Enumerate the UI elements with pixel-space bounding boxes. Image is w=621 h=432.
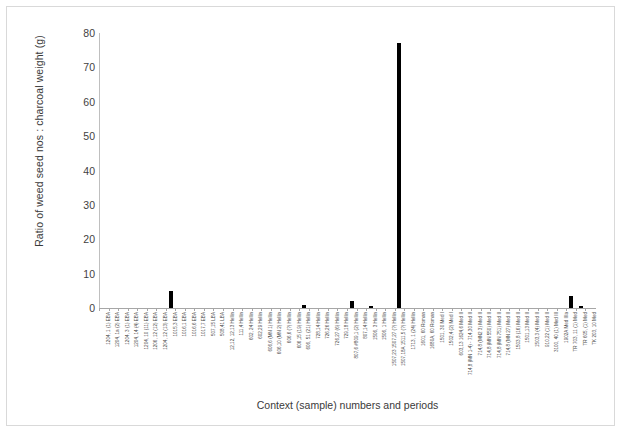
x-axis-category-label: 1016,1 EBA [182,312,187,337]
x-axis-tick [242,308,243,311]
x-axis-tick [118,308,119,311]
x-axis-title: Context (sample) numbers and periods [99,399,596,411]
x-axis-category-label: 1506, 3 Hellin [373,312,378,340]
x-axis-tick [271,308,272,311]
x-axis-tick [204,308,205,311]
x-axis-tick [175,308,176,311]
x-axis-category-label: 910,22 (1) Med II [545,312,550,347]
x-axis-tick [442,308,443,311]
bar-slot [509,33,519,308]
y-axis-tick-label: 70 [69,61,95,73]
x-axis-tick [309,308,310,311]
bar-slot [490,33,500,308]
x-axis-tick [213,308,214,311]
bar [350,301,354,308]
x-axis-category-label: 714,8 (MN 1-4) - 714,30 Med II [468,312,473,375]
x-axis-category-label: 1503,3 (4) Med II [535,312,540,347]
bar-slot [337,33,347,308]
bar-slot [223,33,233,308]
x-axis-tick [414,308,415,311]
x-axis-category-label: 1713, 1 (24) Hellin [411,312,416,350]
bar-slot [557,33,567,308]
x-axis-category-label: 1680A, 60 Roman [430,312,435,349]
x-axis-category-label: 1204, 14 (4) EBA [134,312,139,347]
x-axis-category-label: 1501, 30 Med I [440,312,445,343]
x-axis-category-label: 714,8 (MN2 3) Med II [478,312,483,355]
x-axis-tick [185,308,186,311]
x-axis-category-label: 606, 51 (21) Hellin [306,312,311,350]
bar-slot [585,33,595,308]
x-axis-tick [156,308,157,311]
x-axis-tick [528,308,529,311]
bar [579,306,583,308]
y-axis-tick-label: 40 [69,165,95,177]
x-axis-tick [147,308,148,311]
bar-slot [528,33,538,308]
x-axis-tick [423,308,424,311]
y-axis-tick-label: 0 [69,302,95,314]
x-axis-category-label: 729,18 Hellin [344,312,349,339]
x-axis-tick [557,308,558,311]
x-axis-category-labels: 1204, 1 (1) EBA1204, 1a (2) EBA1204, 3 (… [99,312,596,398]
bar-slot [328,33,338,308]
x-axis-tick [509,308,510,311]
x-axis-tick [194,308,195,311]
bar-slot [566,33,576,308]
x-axis-category-label: 1204, 12 (13) EBA [163,312,168,350]
x-axis-tick [357,308,358,311]
bar-slot [385,33,395,308]
bar-slot [442,33,452,308]
x-axis-tick [347,308,348,311]
plot-wrapper: Ratio of weed seed nos : charcoal weight… [7,7,616,427]
bar-slot [471,33,481,308]
bar-slot [109,33,119,308]
y-axis-tick-labels: 01020304050607080 [65,33,95,308]
x-axis-category-label: 1204, 3 (1) EBA [125,312,130,345]
x-axis-tick [128,308,129,311]
x-axis-tick [500,308,501,311]
bar-slot [318,33,328,308]
x-axis-tick [433,308,434,311]
x-axis-category-label: 1204, 1 (1) EBA [106,312,111,345]
x-axis-category-label: 807,6 #809,1 (2) Hellin [354,312,359,358]
x-axis-category-label: 1017,7 EBA [201,312,206,337]
bar-slot [137,33,147,308]
x-axis-category-label: 1204, 10 (11) EBA [144,312,149,349]
x-axis-tick [366,308,367,311]
x-axis-category-label: 714,8 (MN 27) Med II [506,312,511,355]
x-axis-category-label: 1501,13 Med II [525,312,530,343]
x-axis-tick [137,308,138,311]
bar-slot [271,33,281,308]
x-axis-category-label: 1503,8 (16) Med II [516,312,521,350]
bar-slot [376,33,386,308]
bar-slot [547,33,557,308]
bar [169,291,173,308]
y-axis-tick-label: 60 [69,96,95,108]
bar-slot [423,33,433,308]
bar-slot [233,33,243,308]
bar [302,305,306,308]
x-axis-category-label: 726,26 Hellin [325,312,330,339]
bar-slot [299,33,309,308]
bar-slot [166,33,176,308]
chart-frame: Ratio of weed seed nos : charcoal weight… [6,6,615,426]
bar-slot [261,33,271,308]
bar-slot [414,33,424,308]
x-axis-category-label: 1502,4 (2) Med I [449,312,454,346]
x-axis-category-label: 602,29 Hellin [258,312,263,339]
bar-slot [99,33,109,308]
x-axis-tick [585,308,586,311]
x-axis-tick [471,308,472,311]
x-axis-category-label: 1016,6 EBA [192,312,197,337]
x-axis-category-label: 1206, 12 (12) EBA [153,312,158,350]
bar-slot [538,33,548,308]
x-axis-tick [376,308,377,311]
x-axis-category-label: 508,41 LBA [220,312,225,336]
bar-slot [252,33,262,308]
x-axis-category-label: 1015,3 EBA [173,312,178,337]
x-axis-tick [328,308,329,311]
x-axis-tick [481,308,482,311]
bar-slot [347,33,357,308]
x-axis-tick [566,308,567,311]
x-axis-tick [385,308,386,311]
